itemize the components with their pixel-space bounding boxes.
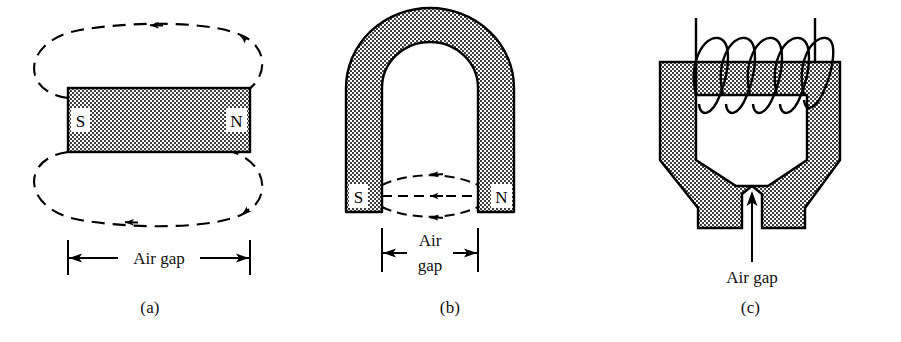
air-gap-label: Air gap [726, 268, 777, 287]
north-pole-text: N [495, 188, 507, 207]
south-pole-text: S [76, 112, 85, 131]
air-gap-label: Air gap [133, 249, 184, 268]
gap-field-lines [382, 174, 478, 218]
air-gap-label-line2: gap [418, 256, 443, 275]
pole-label-north: N [226, 108, 247, 132]
flux-loop-lower [34, 152, 262, 226]
horseshoe-core-body [346, 8, 514, 212]
air-gap-pointer [747, 191, 758, 262]
panel-c-electromagnet: Air gap (c) [600, 0, 901, 342]
panel-b-horseshoe-magnet: S N Air gap (b) [300, 0, 600, 342]
panel-b-caption: (b) [300, 298, 600, 318]
figure-three-magnet-configurations: S N Air gap (a) [0, 0, 901, 342]
air-gap-dimension: Air gap [68, 240, 250, 275]
north-pole-text: N [230, 112, 242, 131]
pole-label-south: S [71, 108, 90, 132]
electromagnet-diagram: Air gap [600, 0, 901, 300]
air-gap-dimension: Air gap [382, 228, 478, 275]
bar-magnet-diagram: S N Air gap [0, 0, 300, 300]
horseshoe-magnet-diagram: S N Air gap [300, 0, 600, 300]
south-pole-text: S [354, 188, 363, 207]
bar-magnet-body [68, 88, 250, 152]
air-gap-label-line1: Air [419, 231, 442, 250]
panel-c-caption: (c) [600, 298, 901, 318]
pole-label-south: S [349, 184, 368, 208]
panel-a-caption: (a) [0, 298, 300, 318]
panel-a-bar-magnet: S N Air gap (a) [0, 0, 300, 342]
pole-label-north: N [491, 184, 512, 208]
